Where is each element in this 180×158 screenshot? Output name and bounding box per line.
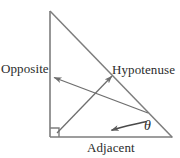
theta-pointer-arrow (112, 122, 147, 131)
hypotenuse-label: Hypotenuse (112, 63, 175, 76)
right-triangle-diagram: Opposite Hypotenuse Adjacent θ (0, 0, 180, 158)
adjacent-label: Adjacent (87, 141, 135, 154)
hypotenuse-pointer-arrow (57, 76, 112, 133)
theta-angle-label: θ (144, 119, 151, 133)
opposite-pointer-arrow (54, 78, 148, 114)
triangle-svg (0, 0, 180, 158)
opposite-label: Opposite (1, 62, 49, 75)
